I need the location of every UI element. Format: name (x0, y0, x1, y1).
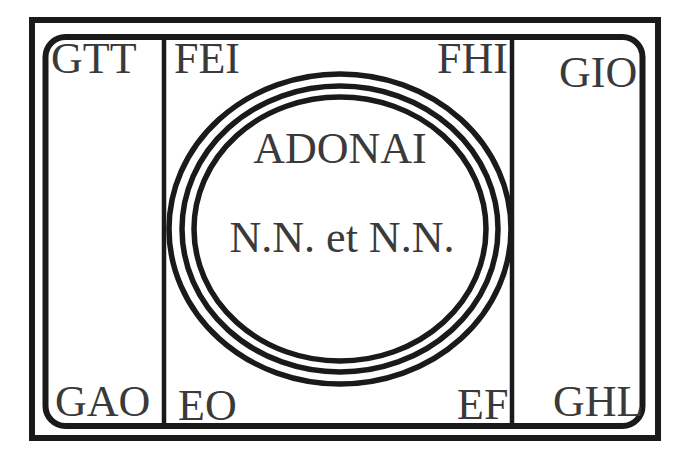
label-center-bottom-right: EF (457, 380, 508, 429)
label-bottom-right: GHL (553, 377, 643, 426)
label-top-right: GIO (559, 48, 637, 97)
label-bottom-left: GAO (55, 377, 150, 426)
label-center-top-left: FEI (174, 34, 240, 83)
seal-diagram: GTT GIO GAO GHL FEI FHI EO EF ADONAI N.N… (0, 0, 685, 468)
label-top-left: GTT (51, 34, 137, 83)
circle-subtitle: N.N. et N.N. (230, 213, 455, 262)
circle-title: ADONAI (253, 124, 427, 173)
label-center-top-right: FHI (437, 34, 508, 83)
label-center-bottom-left: EO (178, 381, 237, 430)
